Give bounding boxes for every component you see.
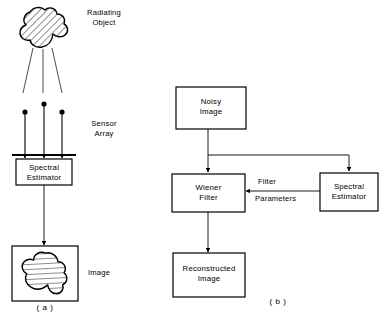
radiation-rays — [23, 48, 62, 93]
block-label-reconstructed-image: Reconstructed Image — [173, 264, 245, 284]
label-radiating-object: Radiating Object — [72, 8, 136, 28]
block-label-noisy-image: Noisy Image — [176, 97, 246, 117]
block-label-wiener-filter: Wiener Filter — [172, 183, 245, 203]
noisy-image-output-path — [208, 129, 349, 155]
caption-panel-b: ( b ) — [258, 297, 298, 307]
edge-label-parameters: Parameters — [255, 194, 315, 204]
label-image: Image — [88, 268, 138, 278]
block-label-spectral-estimator-a: Spectral Estimator — [16, 163, 72, 183]
sensor-array-graphic — [12, 101, 76, 155]
figure-canvas: Radiating Object Sensor Array Spectral E… — [0, 0, 383, 320]
edge-label-filter: Filter — [258, 177, 308, 187]
caption-panel-a: ( a ) — [20, 303, 70, 313]
radiating-object-shape — [20, 8, 68, 48]
label-sensor-array: Sensor Array — [72, 119, 136, 139]
block-label-spectral-estimator-b: Spectral Estimator — [320, 182, 378, 202]
